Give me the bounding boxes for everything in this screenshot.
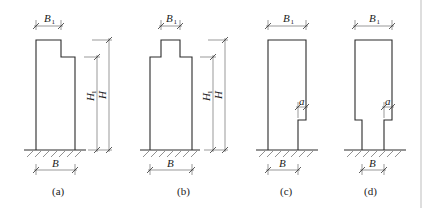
dimension-b1-d: B 1 <box>352 12 395 30</box>
svg-text:1: 1 <box>52 18 56 26</box>
svg-text:1: 1 <box>174 18 178 26</box>
dimension-b-d: B <box>359 157 387 175</box>
svg-text:B: B <box>369 12 376 24</box>
ground-hatch-c <box>256 150 318 157</box>
ground-hatch-a <box>24 150 86 157</box>
dimension-b-a: B <box>33 157 78 175</box>
svg-text:B: B <box>279 157 286 169</box>
panel-d: B 1 a B (d) <box>344 12 406 198</box>
dimension-h1-a: H 1 <box>84 54 100 153</box>
svg-text:a: a <box>299 95 305 107</box>
svg-text:B: B <box>52 157 59 169</box>
dimension-b1-c: B 1 <box>265 12 309 30</box>
dimension-b-b: B <box>147 157 195 175</box>
svg-text:1: 1 <box>90 90 98 94</box>
caption-c: (c) <box>280 185 293 198</box>
svg-text:1: 1 <box>377 18 381 26</box>
svg-text:B: B <box>283 12 290 24</box>
svg-text:1: 1 <box>206 90 214 94</box>
ground-hatch-d <box>344 150 406 157</box>
caption-b: (b) <box>177 185 190 198</box>
svg-text:B: B <box>44 12 51 24</box>
wall-outline-b <box>150 40 192 150</box>
svg-text:B: B <box>166 12 173 24</box>
dimension-b1-b: B 1 <box>158 12 183 30</box>
dimension-a-c: a <box>295 95 309 118</box>
svg-text:a: a <box>385 95 391 107</box>
dimension-h1-b: H 1 <box>200 54 216 153</box>
ground-hatch-b <box>140 150 200 157</box>
dimension-b-c: B <box>265 157 301 175</box>
panel-a: B 1 H H 1 B (a) <box>24 12 112 198</box>
wall-outline-a <box>36 40 75 150</box>
retaining-wall-diagram: B 1 H H 1 B (a) <box>0 0 428 208</box>
svg-text:1: 1 <box>291 18 295 26</box>
caption-d: (d) <box>364 185 377 198</box>
svg-text:B: B <box>369 157 376 169</box>
svg-text:B: B <box>167 157 174 169</box>
caption-a: (a) <box>52 185 65 198</box>
dimension-b1-a: B 1 <box>33 12 64 30</box>
dimension-a-d: a <box>381 95 395 118</box>
panel-b: B 1 H H 1 B (b) <box>140 12 228 198</box>
panel-c: B 1 a B (c) <box>256 12 318 198</box>
